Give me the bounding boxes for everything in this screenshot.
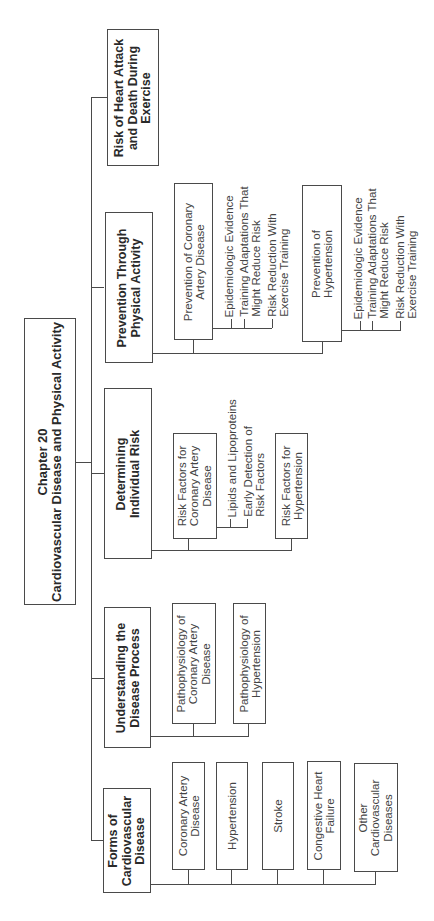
determining-item-label: Risk Factors for Hypertension	[279, 446, 304, 527]
understanding-item-label: Pathophysiology of Hypertension	[237, 615, 262, 712]
stub	[188, 539, 189, 550]
section-forms-label: Forms of Cardiovascular Disease	[107, 795, 148, 885]
understanding-item-hypertension: Pathophysiology of Hypertension	[233, 603, 266, 724]
prevention-item-hypertension: Prevention of Hypertension	[302, 185, 342, 342]
stub	[193, 340, 194, 353]
section-prevention-label: Prevention Through Physical Activity	[116, 228, 143, 347]
stub	[322, 342, 323, 353]
stub	[272, 319, 273, 328]
subitem-training-htn: Training Adaptations That Might Reduce R…	[366, 182, 394, 319]
connector-determining	[91, 473, 104, 474]
stub	[372, 321, 373, 330]
stub	[375, 872, 376, 884]
determining-item-label: Risk Factors for Coronary Artery Disease	[176, 446, 213, 527]
determining-sub-bus	[217, 527, 248, 528]
forms-item-label: Hypertension	[226, 782, 238, 850]
subitem-training-cad: Training Adaptations That Might Reduce R…	[238, 180, 266, 317]
forms-item-stroke: Stroke	[262, 762, 294, 870]
stub	[248, 724, 249, 736]
forms-bus	[151, 884, 376, 885]
stub	[291, 539, 292, 550]
subitem-label: Lipids and Lipoproteins	[226, 399, 238, 517]
stub	[231, 319, 232, 328]
prevention-item-cad: Prevention of Coronary Artery Disease	[174, 183, 213, 340]
connector-prevention	[91, 287, 104, 288]
prevention-cad-sub-bus	[213, 328, 272, 329]
forms-item-other: Other Cardiovascular Diseases	[354, 763, 398, 872]
stub	[247, 519, 248, 527]
subitem-risk-reduction-htn: Risk Reduction With Exercise Training	[394, 182, 422, 319]
subitem-label: Epidemiologic Evidence	[352, 197, 364, 319]
stub	[193, 724, 194, 736]
section-forms: Forms of Cardiovascular Disease	[103, 788, 151, 893]
forms-item-hypertension: Hypertension	[216, 762, 248, 870]
section-determining-label: Determining Individual Risk	[115, 429, 142, 517]
subitem-epidemiologic-htn: Epidemiologic Evidence	[352, 182, 366, 319]
forms-item-cad: Coronary Artery Disease	[172, 762, 205, 870]
prevention-item-label: Prevention of Coronary Artery Disease	[181, 202, 206, 320]
forms-item-chf: Congestive Heart Failure	[307, 761, 341, 870]
prevention-htn-sub-bus	[342, 330, 401, 331]
section-prevention: Prevention Through Physical Activity	[105, 212, 153, 363]
subitem-label: Risk Reduction With Exercise Training	[266, 213, 291, 317]
stub	[230, 519, 231, 527]
stub	[244, 319, 245, 328]
root-box: Chapter 20 Cardiovascular Disease and Ph…	[24, 318, 76, 605]
section-understanding-label: Understanding the Disease Process	[114, 622, 141, 732]
section-understanding: Understanding the Disease Process	[104, 607, 151, 748]
determining-bus	[152, 550, 292, 551]
forms-item-label: Stroke	[272, 799, 284, 832]
understanding-item-label: Pathophysiology of Coronary Artery Disea…	[175, 615, 212, 712]
subitem-risk-reduction-cad: Risk Reduction With Exercise Training	[266, 180, 294, 317]
subitem-epidemiologic-cad: Epidemiologic Evidence	[223, 180, 237, 317]
subitem-label: Epidemiologic Evidence	[223, 195, 235, 317]
stub	[277, 870, 278, 884]
forms-item-label: Other Cardiovascular Diseases	[357, 779, 394, 856]
subitem-early-detection: Early Detection of Risk Factors	[242, 420, 270, 517]
determining-item-hypertension: Risk Factors for Hypertension	[275, 433, 308, 539]
stub	[360, 321, 361, 330]
stub	[400, 321, 401, 330]
connector-risk	[91, 97, 107, 98]
subitem-lipids: Lipids and Lipoproteins	[226, 420, 240, 517]
understanding-item-cad: Pathophysiology of Coronary Artery Disea…	[172, 603, 216, 724]
spine-line	[91, 97, 92, 841]
section-determining: Determining Individual Risk	[104, 388, 152, 559]
subitem-label: Risk Reduction With Exercise Training	[394, 215, 419, 319]
subitem-label: Training Adaptations That Might Reduce R…	[238, 187, 263, 317]
root-title: Chapter 20 Cardiovascular Disease and Ph…	[36, 322, 64, 602]
stub	[323, 870, 324, 884]
prevention-item-label: Prevention of Hypertension	[310, 230, 335, 298]
understanding-bus	[150, 736, 249, 737]
determining-item-cad: Risk Factors for Coronary Artery Disease	[173, 433, 217, 539]
forms-item-label: Coronary Artery Disease	[176, 776, 201, 857]
forms-item-label: Congestive Heart Failure	[312, 771, 337, 860]
subitem-label: Early Detection of Risk Factors	[242, 426, 267, 517]
section-risk-label: Risk of Heart Attack and Death During Ex…	[113, 38, 154, 156]
section-risk: Risk of Heart Attack and Death During Ex…	[107, 29, 159, 166]
prevention-bus	[153, 353, 323, 354]
subitem-label: Training Adaptations That Might Reduce R…	[366, 189, 391, 319]
stub	[231, 870, 232, 884]
connector-understanding	[91, 678, 104, 679]
stub	[188, 870, 189, 884]
root-connector	[76, 462, 91, 463]
